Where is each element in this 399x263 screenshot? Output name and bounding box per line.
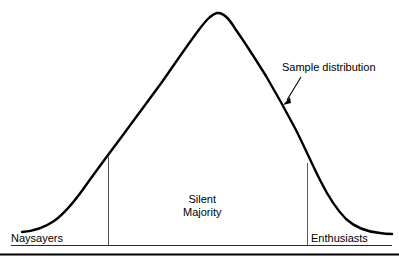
callout-arrow-shaft — [287, 77, 301, 100]
bell-curve-figure: Sample distribution SilentMajority Naysa… — [0, 0, 399, 263]
sample-distribution-label: Sample distribution — [282, 61, 376, 73]
silent-majority-line-2: Majority — [183, 206, 222, 218]
silent-majority-label: SilentMajority — [183, 193, 222, 219]
bell-curve-canvas — [0, 0, 399, 263]
callout-arrow-head — [283, 97, 291, 105]
enthusiasts-label: Enthusiasts — [311, 232, 368, 244]
naysayers-label: Naysayers — [11, 232, 63, 244]
silent-majority-line-1: Silent — [188, 193, 216, 205]
